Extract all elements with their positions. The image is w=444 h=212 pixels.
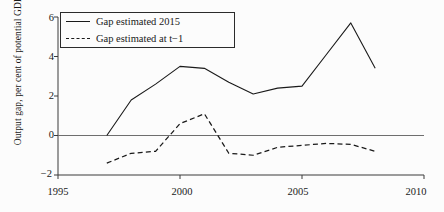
legend: Gap estimated 2015 Gap estimated at t−1: [60, 12, 235, 48]
legend-label-0: Gap estimated 2015: [96, 16, 180, 27]
output-gap-line-chart: Output gap, per cent of potential GDP 6 …: [0, 0, 444, 212]
series-line-gap-estimated-t-minus-1: [107, 114, 375, 163]
legend-label-1: Gap estimated at t−1: [96, 33, 183, 44]
legend-solid-line-icon: [66, 21, 90, 22]
legend-item-gap-estimated-t-minus-1: Gap estimated at t−1: [65, 30, 183, 47]
legend-item-gap-estimated-2015: Gap estimated 2015: [65, 13, 180, 30]
legend-dashed-line-icon: [66, 38, 90, 39]
